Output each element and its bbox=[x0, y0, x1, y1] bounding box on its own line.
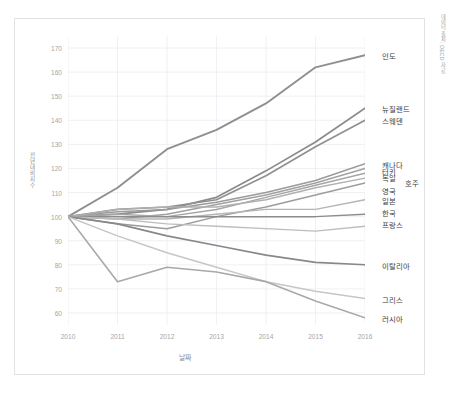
y-axis-tick: 130 bbox=[36, 141, 62, 148]
y-axis-tick: 140 bbox=[36, 117, 62, 124]
y-axis-tick: 80 bbox=[36, 261, 62, 268]
chart-page: 데이터 출처: OECD 자료 전년대비지수 날짜 60708090100110… bbox=[0, 0, 465, 396]
y-axis-tick: 100 bbox=[36, 213, 62, 220]
x-axis-tick: 2015 bbox=[296, 333, 336, 340]
x-axis-tick: 2014 bbox=[246, 333, 286, 340]
series-label-그리스: 그리스 bbox=[382, 293, 403, 304]
x-axis-tick: 2013 bbox=[197, 333, 237, 340]
line-chart-svg bbox=[68, 36, 365, 325]
series-label-일본: 일본 bbox=[382, 194, 396, 205]
y-axis-label: 전년대비지수 bbox=[24, 152, 36, 188]
series-label-이탈리아: 이탈리아 bbox=[382, 259, 410, 270]
source-note: 데이터 출처: OECD 자료 bbox=[432, 14, 446, 114]
series-label-프랑스: 프랑스 bbox=[382, 218, 403, 229]
y-axis-tick: 160 bbox=[36, 69, 62, 76]
x-axis-tick: 2012 bbox=[147, 333, 187, 340]
y-axis-tick: 70 bbox=[36, 285, 62, 292]
y-axis-tick: 90 bbox=[36, 237, 62, 244]
x-axis-label: 날짜 bbox=[0, 352, 370, 362]
y-axis-tick: 60 bbox=[36, 309, 62, 316]
series-label-한국: 한국 bbox=[382, 206, 396, 217]
series-label-러시아: 러시아 bbox=[382, 312, 403, 323]
x-axis-tick: 2016 bbox=[345, 333, 385, 340]
series-label-독일: 독일 bbox=[382, 171, 396, 182]
series-label-뉴질랜드: 뉴질랜드 bbox=[382, 103, 410, 114]
series-label-스웨덴: 스웨덴 bbox=[382, 115, 403, 126]
plot-area bbox=[68, 36, 365, 325]
y-axis-tick: 120 bbox=[36, 165, 62, 172]
x-axis-tick: 2010 bbox=[48, 333, 88, 340]
series-label-인도: 인도 bbox=[382, 50, 396, 61]
series-label-호주: 호주 bbox=[405, 176, 419, 187]
x-axis-tick: 2011 bbox=[98, 333, 138, 340]
y-axis-tick: 170 bbox=[36, 45, 62, 52]
y-axis-tick: 110 bbox=[36, 189, 62, 196]
y-axis-tick: 150 bbox=[36, 93, 62, 100]
